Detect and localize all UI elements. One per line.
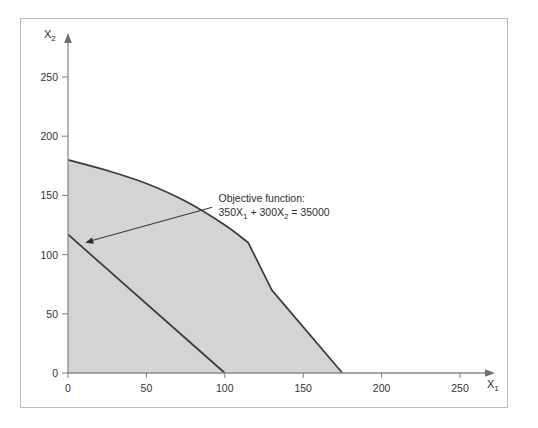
annotation-line-2: 350X1 + 300X2 = 35000 xyxy=(219,205,330,224)
annotation-term-2: + 300X xyxy=(248,206,285,218)
x-tick-label: 200 xyxy=(373,382,391,394)
annotation-term-1: 350X xyxy=(219,206,244,218)
x-axis-label: X1 xyxy=(487,378,499,393)
objective-function-annotation: Objective function: 350X1 + 300X2 = 3500… xyxy=(219,191,330,224)
x-tick-label: 0 xyxy=(65,382,71,394)
y-tick-label: 100 xyxy=(34,249,58,261)
y-tick-label: 150 xyxy=(34,189,58,201)
x-tick-label: 50 xyxy=(141,382,153,394)
y-axis-ticks xyxy=(62,77,68,373)
x-axis-ticks xyxy=(68,373,460,378)
y-tick-label: 200 xyxy=(34,130,58,142)
annotation-term-3: = 35000 xyxy=(288,206,329,218)
y-axis-label: X2 xyxy=(44,28,56,43)
x-tick-label: 100 xyxy=(216,382,234,394)
y-tick-label: 50 xyxy=(34,308,58,320)
x-axis-arrow-icon xyxy=(485,369,495,377)
x-tick-label: 250 xyxy=(451,382,469,394)
y-axis-arrow-icon xyxy=(64,33,72,43)
y-tick-label: 250 xyxy=(34,71,58,83)
figure-container: X2 X1 050100150200250 050100150200250 Ob… xyxy=(0,0,538,428)
x-axis-label-subscript: 1 xyxy=(494,384,498,393)
annotation-line-1: Objective function: xyxy=(219,191,330,205)
y-tick-label: 0 xyxy=(34,367,58,379)
y-axis-label-subscript: 2 xyxy=(51,34,55,43)
x-tick-label: 150 xyxy=(294,382,312,394)
